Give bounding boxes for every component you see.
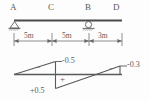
sign-marker-cb: + [60,75,65,84]
dimension-label-cb: 5m [62,32,72,40]
node-label-c: C [48,3,54,12]
segment-bd-negative [96,66,120,75]
ground-hatch-icon [83,29,93,31]
node-label-b: B [85,3,91,12]
dimension-label-bd: 3m [98,32,108,40]
ordinate-label-d-negative: -0.3 [127,61,140,69]
node-label-d: D [113,3,120,12]
ordinate-label-c-negative: -0.5 [62,57,75,65]
ordinate-label-c-positive: +0.5 [30,87,45,95]
sign-marker-ac: − [35,63,40,72]
roller-support-icon [83,22,95,31]
figure-canvas [0,0,150,101]
node-label-a: A [10,3,17,12]
ground-hatch-icon [9,29,19,31]
sign-marker-bd: − [109,64,114,73]
influence-line-figure: A C B D 5m 5m 3m -0.5 +0.5 -0.3 − + − [0,0,150,101]
dimension-label-ac: 5m [24,32,34,40]
pin-support-icon [9,22,21,31]
